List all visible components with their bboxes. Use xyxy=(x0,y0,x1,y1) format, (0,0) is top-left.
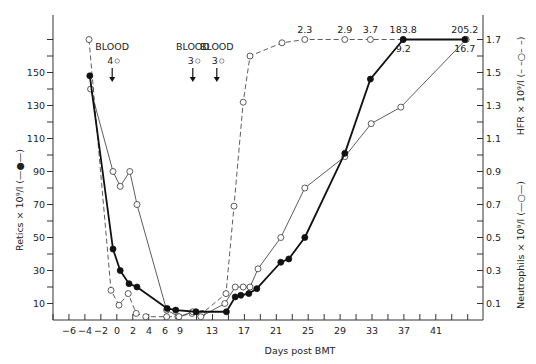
data-point-retics xyxy=(342,150,348,156)
data-point-retics xyxy=(302,235,308,241)
data-point-retics xyxy=(462,37,468,43)
data-point-hfr xyxy=(86,37,92,43)
value-label: 3.7 xyxy=(363,24,378,35)
series-line-retics xyxy=(90,40,465,312)
data-point-neutrophils xyxy=(240,284,246,290)
data-point-hfr xyxy=(133,310,139,316)
data-point-retics xyxy=(193,309,199,315)
value-label: 2.9 xyxy=(337,24,352,35)
arrow-head-icon xyxy=(190,77,196,82)
data-point-hfr xyxy=(240,99,246,105)
blood-units-label: 3 xyxy=(188,55,194,66)
value-label: 183.8 xyxy=(390,24,417,35)
axes: 10305070901101301500.10.30.50.70.91.11.3… xyxy=(27,15,501,336)
y-tick-label-left: 150 xyxy=(27,67,45,78)
value-label: 16.7 xyxy=(454,43,475,54)
y-tick-label-right: 0.5 xyxy=(486,232,501,243)
y-tick-label-left: 50 xyxy=(33,232,45,243)
data-point-hfr xyxy=(367,37,373,43)
data-point-neutrophils xyxy=(134,202,140,208)
y-tick-label-right: 0.1 xyxy=(486,298,501,309)
data-point-neutrophils xyxy=(247,284,253,290)
y-tick-label-right: 1.7 xyxy=(486,34,501,45)
blood-units-label: 3 xyxy=(212,55,218,66)
chart-container: 10305070901101301500.10.30.50.70.91.11.3… xyxy=(0,0,536,364)
data-point-retics xyxy=(87,73,93,79)
data-point-retics xyxy=(223,309,229,315)
y-tick-label-left: 10 xyxy=(33,298,45,309)
blood-transfusion-label: BLOOD xyxy=(95,41,129,52)
data-point-retics xyxy=(117,268,123,274)
y-tick-label-left: 90 xyxy=(33,166,45,177)
data-point-neutrophils xyxy=(222,301,228,307)
data-point-neutrophils xyxy=(176,314,182,320)
y-tick-label-right: 0.7 xyxy=(486,199,501,210)
y-tick-label-right: 0.3 xyxy=(486,265,501,276)
data-point-retics xyxy=(164,305,170,311)
unit-circle-icon xyxy=(196,59,200,63)
data-point-hfr xyxy=(223,291,229,297)
blood-transfusion-label: BLOOD xyxy=(200,41,234,52)
data-point-hfr xyxy=(116,302,122,308)
data-point-retics xyxy=(134,284,140,290)
data-point-neutrophils xyxy=(255,266,261,272)
data-point-neutrophils xyxy=(110,169,116,175)
arrow-head-icon xyxy=(109,77,115,82)
data-point-hfr xyxy=(143,314,149,320)
data-point-hfr xyxy=(342,37,348,43)
data-point-neutrophils xyxy=(368,121,374,127)
data-point-neutrophils xyxy=(278,235,284,241)
x-tick-label: 29 xyxy=(334,325,346,336)
data-point-retics xyxy=(286,256,292,262)
data-point-retics xyxy=(238,292,244,298)
x-tick-label: 6 xyxy=(162,325,168,336)
y-tick-label-left: 110 xyxy=(27,133,45,144)
series-line-neutrophils xyxy=(91,40,466,317)
data-point-neutrophils xyxy=(302,185,308,191)
chart-svg: 10305070901101301500.10.30.50.70.91.11.3… xyxy=(0,0,536,364)
series-line-hfr xyxy=(89,40,466,317)
data-point-retics xyxy=(254,286,260,292)
data-point-retics xyxy=(173,307,179,313)
unit-circle-icon xyxy=(220,59,224,63)
data-point-hfr xyxy=(302,37,308,43)
data-point-hfr xyxy=(231,203,237,209)
series-layer xyxy=(86,37,469,320)
x-tick-label: −6 xyxy=(62,325,76,336)
x-axis-title: Days post BMT xyxy=(265,345,336,356)
x-tick-label: 21 xyxy=(270,325,282,336)
data-point-hfr xyxy=(279,40,285,46)
arrow-head-icon xyxy=(214,77,220,82)
data-point-hfr xyxy=(164,314,170,320)
y-axis-right-lower-title: Neutrophils × 10⁹/l (—○—) xyxy=(515,181,526,309)
y-axis-left-title: Retics × 10⁹/l (—●—) xyxy=(14,149,25,251)
data-point-neutrophils xyxy=(198,314,204,320)
data-point-hfr xyxy=(125,291,131,297)
data-point-retics xyxy=(246,291,252,297)
annotations-layer: BLOOD4BLOOD3BLOOD32.32.93.7183.8205.29.2… xyxy=(95,24,478,82)
data-point-retics xyxy=(126,281,132,287)
x-tick-label: 13 xyxy=(206,325,218,336)
value-label: 2.3 xyxy=(297,24,312,35)
x-tick-label: 25 xyxy=(302,325,314,336)
x-tick-label: −4 xyxy=(78,325,92,336)
x-tick-label: 0 xyxy=(114,325,120,336)
data-point-hfr xyxy=(247,53,253,59)
x-tick-label: 33 xyxy=(366,325,378,336)
y-tick-label-left: 70 xyxy=(33,199,45,210)
y-axis-right-upper-title: HFR × 10⁹/l (– –○– –) xyxy=(515,37,526,136)
y-tick-label-left: 130 xyxy=(27,100,45,111)
blood-units-label: 4 xyxy=(107,55,113,66)
x-tick-label: 4 xyxy=(146,325,152,336)
value-label: 205.2 xyxy=(451,24,478,35)
value-label: 9.2 xyxy=(396,43,411,54)
x-tick-label: 37 xyxy=(398,325,410,336)
x-tick-label: −2 xyxy=(94,325,108,336)
data-point-retics xyxy=(367,76,373,82)
y-tick-label-right: 1.3 xyxy=(486,100,501,111)
data-point-neutrophils xyxy=(127,169,133,175)
y-tick-label-left: 30 xyxy=(33,265,45,276)
data-point-retics xyxy=(110,246,116,252)
x-tick-label: 2 xyxy=(130,325,136,336)
x-tick-label: 41 xyxy=(430,325,442,336)
